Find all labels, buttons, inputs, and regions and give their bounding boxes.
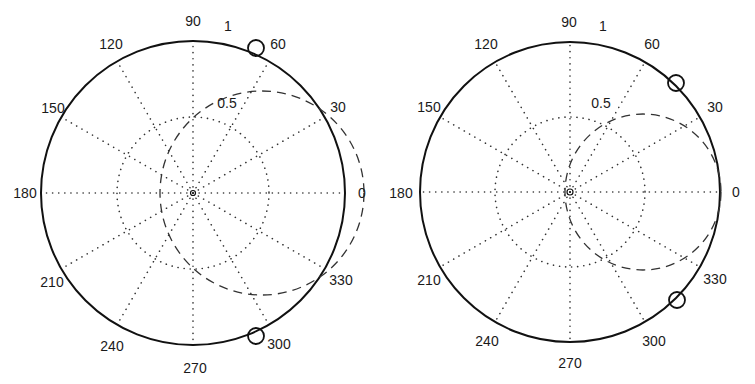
angle-label-180: 180 bbox=[389, 185, 413, 201]
angle-label-180: 180 bbox=[13, 185, 37, 201]
angle-label-150: 150 bbox=[417, 99, 441, 115]
angle-label-300: 300 bbox=[267, 336, 291, 352]
marker-upper bbox=[668, 75, 684, 91]
angle-label-90: 90 bbox=[561, 14, 577, 30]
radial-label-0.5: 0.5 bbox=[591, 95, 611, 111]
angle-label-0: 0 bbox=[358, 185, 366, 201]
angle-label-240: 240 bbox=[100, 338, 124, 354]
angle-label-210: 210 bbox=[417, 272, 441, 288]
angle-label-150: 150 bbox=[41, 100, 65, 116]
polar-plot-left: 90 1 60 120 150 30 0.5 180 0 210 330 240… bbox=[13, 13, 366, 376]
angle-label-240: 240 bbox=[475, 333, 499, 349]
angle-label-120: 120 bbox=[99, 36, 123, 52]
marker-lower bbox=[669, 292, 685, 308]
angle-label-270: 270 bbox=[183, 360, 207, 376]
angular-grid bbox=[420, 42, 720, 342]
figure: 90 1 60 120 150 30 0.5 180 0 210 330 240… bbox=[0, 0, 755, 384]
angle-label-270: 270 bbox=[558, 355, 582, 371]
radial-label-1: 1 bbox=[599, 18, 607, 34]
angle-label-60: 60 bbox=[644, 36, 660, 52]
radial-label-1: 1 bbox=[224, 18, 232, 34]
angle-label-210: 210 bbox=[40, 274, 64, 290]
angle-label-330: 330 bbox=[703, 271, 727, 287]
angle-label-330: 330 bbox=[329, 272, 353, 288]
angle-label-90: 90 bbox=[185, 13, 201, 29]
angular-grid bbox=[41, 41, 345, 345]
angle-label-120: 120 bbox=[474, 36, 498, 52]
radial-label-0.5: 0.5 bbox=[217, 95, 237, 111]
angle-label-300: 300 bbox=[642, 333, 666, 349]
angle-label-60: 60 bbox=[270, 36, 286, 52]
angle-label-30: 30 bbox=[330, 99, 346, 115]
angle-label-30: 30 bbox=[707, 99, 723, 115]
angle-label-0: 0 bbox=[732, 184, 740, 200]
polar-plot-right: 90 1 60 120 150 30 0.5 180 0 210 330 240… bbox=[389, 14, 740, 371]
